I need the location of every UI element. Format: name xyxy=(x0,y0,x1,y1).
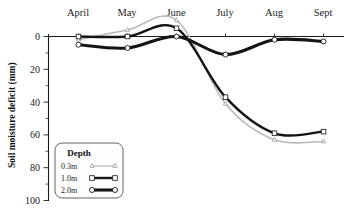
data-point-1.0m-May xyxy=(125,34,130,39)
legend-swatch-marker-right-2.0m xyxy=(113,188,118,193)
y-tick-label-60: 60 xyxy=(30,129,40,140)
x-tick-label-july: July xyxy=(216,7,234,18)
data-point-1.0m-Sept xyxy=(321,129,326,134)
series-line-0.3m xyxy=(79,16,324,143)
data-point-2.0m-Aug xyxy=(272,37,277,42)
series-1.0m xyxy=(76,25,326,135)
y-axis-label: Soil moisture deficit (mm) xyxy=(7,62,18,168)
y-tick-label-0: 0 xyxy=(35,31,40,42)
data-point-1.0m-July xyxy=(223,95,228,100)
series-layer xyxy=(76,16,326,143)
legend-swatch-marker-left-2.0m xyxy=(90,188,95,193)
data-point-1.0m-April xyxy=(76,34,81,39)
y-tick-label-100: 100 xyxy=(25,195,40,206)
legend-title: Depth xyxy=(67,148,91,158)
y-tick-label-20: 20 xyxy=(30,64,40,75)
soil-moisture-deficit-chart: Soil moisture deficit (mm) 0 20 40 60 80… xyxy=(0,0,345,214)
legend-item-label-2.0m: 2.0m xyxy=(61,186,78,195)
data-point-2.0m-July xyxy=(223,52,228,57)
x-tick-label-aug: Aug xyxy=(265,7,284,18)
series-line-2.0m xyxy=(79,36,324,54)
series-line-1.0m xyxy=(79,25,324,135)
y-tick-label-80: 80 xyxy=(30,162,40,173)
legend-item-label-0.3m: 0.3m xyxy=(61,162,78,171)
x-tick-label-sept: Sept xyxy=(314,7,333,18)
data-point-2.0m-May xyxy=(125,45,130,50)
data-point-2.0m-April xyxy=(76,42,81,47)
x-tick-label-may: May xyxy=(117,7,137,18)
legend: Depth 0.3m 1.0m 2.0m xyxy=(55,143,123,198)
data-point-1.0m-Aug xyxy=(272,131,277,136)
data-point-1.0m-June xyxy=(174,26,179,31)
data-point-2.0m-June xyxy=(174,34,179,39)
legend-swatch-marker-right-1.0m xyxy=(113,176,118,181)
legend-item-label-1.0m: 1.0m xyxy=(61,174,78,183)
y-tick-label-40: 40 xyxy=(30,97,40,108)
data-point-2.0m-Sept xyxy=(321,39,326,44)
legend-swatch-marker-left-1.0m xyxy=(90,176,95,181)
series-0.3m xyxy=(76,16,325,143)
x-tick-label-april: April xyxy=(67,7,89,18)
